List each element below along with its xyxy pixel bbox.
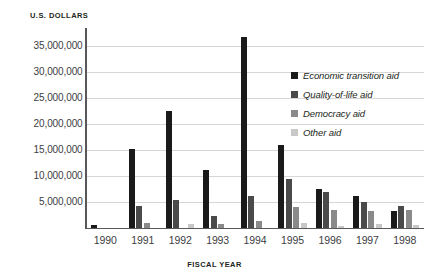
bar <box>391 211 397 228</box>
bar-group-1993 <box>199 28 236 228</box>
x-axis-tick-label-1991: 1991 <box>124 234 161 246</box>
x-axis-tick-labels: 199019911992199319941995199619971998 <box>87 234 424 246</box>
x-axis-title: FISCAL YEAR <box>0 260 429 269</box>
legend-item: Economic transition aid <box>291 66 427 85</box>
legend-swatch-icon <box>291 72 298 79</box>
legend-item-label: Quality-of-life aid <box>303 89 372 100</box>
bar-group-1991 <box>124 28 161 228</box>
chart-legend: Economic transition aidQuality-of-life a… <box>291 66 427 142</box>
y-axis-tick-label: 20,000,000 <box>34 119 83 129</box>
x-axis-tick-label-1998: 1998 <box>386 234 423 246</box>
bar-group-1994 <box>236 28 273 228</box>
legend-item-label: Other aid <box>303 127 341 138</box>
bar <box>293 207 299 228</box>
x-axis-tick-label-1993: 1993 <box>199 234 236 246</box>
bar <box>166 111 172 228</box>
legend-swatch-icon <box>291 110 298 117</box>
bar <box>398 206 404 228</box>
bar-chart-figure: U.S. DOLLARS 35,000,00030,000,00025,000,… <box>0 0 429 277</box>
bar <box>376 224 382 228</box>
bar <box>136 206 142 228</box>
bar <box>331 210 337 228</box>
bar <box>203 170 209 228</box>
y-axis-tick-label: 15,000,000 <box>34 145 83 155</box>
bar <box>129 149 135 228</box>
x-axis-tick-label-1997: 1997 <box>349 234 386 246</box>
x-axis-tick-label-1995: 1995 <box>274 234 311 246</box>
bar <box>406 210 412 228</box>
bar <box>188 224 194 228</box>
bar <box>91 225 97 228</box>
bar <box>211 216 217 228</box>
legend-item-label: Democracy aid <box>303 108 365 119</box>
legend-item-label: Economic transition aid <box>303 70 399 81</box>
y-axis-tick-label: 30,000,000 <box>34 67 83 77</box>
legend-swatch-icon <box>291 129 298 136</box>
legend-item: Other aid <box>291 123 427 142</box>
y-axis-title: U.S. DOLLARS <box>30 11 88 20</box>
y-axis-tick-label: 10,000,000 <box>34 171 83 181</box>
bar <box>256 221 262 228</box>
bar <box>353 196 359 228</box>
bar <box>144 223 150 228</box>
bar <box>301 223 307 228</box>
bar <box>248 196 254 228</box>
bar <box>316 189 322 228</box>
x-axis-tick-label-1990: 1990 <box>87 234 124 246</box>
y-axis-tick-label: 5,000,000 <box>39 197 83 207</box>
cropped-title-remnant <box>0 0 429 8</box>
bar <box>173 200 179 228</box>
bar <box>361 202 367 228</box>
bar <box>218 224 224 228</box>
bar <box>323 192 329 228</box>
legend-swatch-icon <box>291 91 298 98</box>
bar <box>413 225 419 228</box>
y-axis-tick-label: 35,000,000 <box>34 41 83 51</box>
bar <box>338 226 344 228</box>
x-axis-tick-label-1992: 1992 <box>161 234 198 246</box>
bar-group-1992 <box>161 28 198 228</box>
legend-item: Democracy aid <box>291 104 427 123</box>
bar-group-1990 <box>87 28 124 228</box>
bar <box>241 37 247 228</box>
x-axis-tick-label-1996: 1996 <box>311 234 348 246</box>
x-axis-tick-label-1994: 1994 <box>236 234 273 246</box>
bar <box>286 179 292 228</box>
bar <box>278 145 284 228</box>
bar <box>368 211 374 228</box>
y-axis-tick-label: 25,000,000 <box>34 93 83 103</box>
legend-item: Quality-of-life aid <box>291 85 427 104</box>
x-axis-line <box>85 228 424 229</box>
